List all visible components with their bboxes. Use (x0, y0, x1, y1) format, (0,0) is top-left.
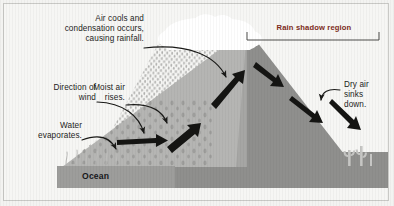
label-water-evaporates: Water evaporates. (10, 121, 82, 141)
rain-cloud (158, 14, 262, 50)
label-ocean: Ocean (82, 171, 109, 181)
label-rain-shadow-region: Rain shadow region (252, 23, 376, 32)
rain-shadow-bracket (247, 32, 379, 40)
label-air-cools: Air cools and condensation occurs, causi… (16, 14, 144, 44)
label-moist-air-rises: Moist air rises. (62, 83, 125, 103)
diagram-frame: Air cools and condensation occurs, causi… (3, 3, 389, 201)
arrow-dry-air-sinks-pointer (321, 89, 340, 100)
label-dry-air-sinks: Dry air sinks down. (344, 80, 388, 110)
rain-shadow-diagram: Air cools and condensation occurs, causi… (0, 0, 394, 206)
